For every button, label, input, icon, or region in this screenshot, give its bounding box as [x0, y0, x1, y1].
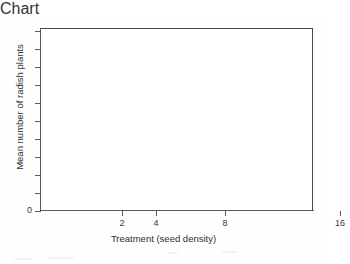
x-axis-title: Treatment (seed density)	[0, 234, 327, 244]
x-axis-tick-label: 4	[146, 219, 166, 228]
scan-artifact	[222, 251, 238, 253]
x-axis-tick-label: 2	[112, 219, 132, 228]
y-axis-tick-label: 0	[6, 206, 32, 215]
x-axis-tick-label: 16	[330, 219, 350, 228]
x-axis-tick	[156, 211, 157, 216]
x-axis-tick-label: 8	[215, 219, 235, 228]
figure-radish-plants: Mean number of radish plants 0 24816 Tre…	[0, 18, 327, 264]
scan-artifact	[48, 257, 74, 259]
scan-artifact	[168, 252, 178, 254]
y-axis-title: Mean number of radish plants	[15, 27, 25, 187]
x-axis-tick	[340, 211, 341, 216]
scan-artifact	[14, 258, 32, 260]
x-axis-tick	[225, 211, 226, 216]
plot-area	[40, 28, 313, 211]
x-axis-tick	[122, 211, 123, 216]
